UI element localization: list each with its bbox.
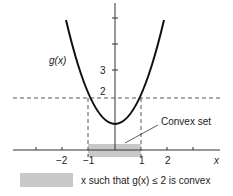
y-tick-label-3: 3	[100, 65, 106, 76]
x-axis-label: x	[213, 155, 220, 166]
convex-set-diagram: g(x) 3 2 Convex set −2 −1 1 2 x x such t…	[0, 0, 233, 196]
x-tick-label-neg2: −2	[56, 155, 68, 166]
curve-label: g(x)	[49, 55, 66, 66]
legend-swatch	[20, 173, 73, 187]
x-tick-label-1: 1	[139, 155, 145, 166]
legend-text: x such that g(x) ≤ 2 is convex	[81, 175, 210, 186]
y-tick-label-2: 2	[100, 86, 106, 97]
x-tick-label-2: 2	[165, 155, 171, 166]
annotation-label: Convex set	[161, 116, 211, 127]
x-tick-label-neg1: −1	[83, 155, 95, 166]
